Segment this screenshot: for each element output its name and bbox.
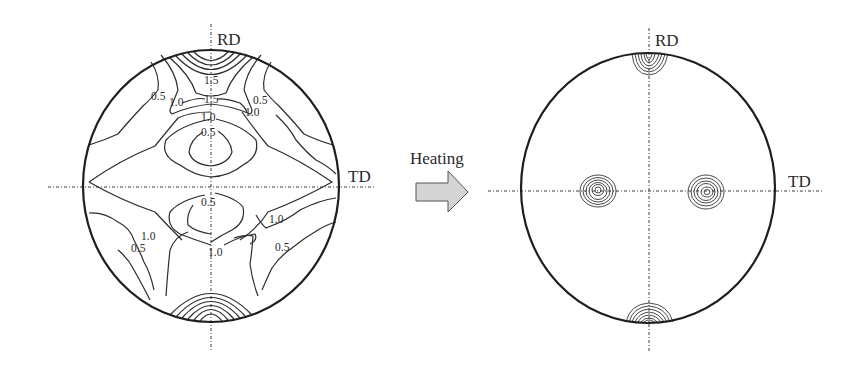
contour-label: 0.5 — [151, 90, 166, 102]
pole-figure-after: RD TD — [488, 28, 822, 352]
contour-label: 1.5 — [204, 93, 219, 105]
rd-label-before: RD — [217, 30, 241, 49]
right-pole-spot — [688, 175, 724, 209]
contour-label: 0.5 — [253, 94, 268, 106]
contour-label: 0.5 — [201, 196, 216, 208]
td-label-before: TD — [348, 167, 371, 186]
td-label-after: TD — [788, 172, 811, 191]
bottom-pole-contours — [170, 294, 252, 322]
right-arrow-icon — [416, 171, 468, 212]
rd-label-after: RD — [655, 31, 679, 50]
heating-label: Heating — [410, 149, 464, 168]
bottom-pole-spot — [626, 303, 673, 322]
pole-figure-before: RD TD 1.5 1.5 0.5 1.0 0.5 1.0 1.0 0.5 0.… — [48, 24, 375, 350]
contour-label: 1.5 — [204, 74, 219, 86]
contour-label: 0.5 — [201, 126, 216, 138]
pole-figure-diagram: RD TD 1.5 1.5 0.5 1.0 0.5 1.0 1.0 0.5 0.… — [0, 0, 863, 369]
contour-label: 1.0 — [169, 96, 184, 108]
contour-label: 0.5 — [275, 241, 290, 253]
top-pole-spot — [632, 54, 668, 75]
contour-label: 1.0 — [201, 111, 216, 123]
contour-label: 1.0 — [245, 106, 260, 118]
contour-label: 1.0 — [208, 246, 223, 258]
contour-label: 0.5 — [131, 242, 146, 254]
stereographic-rim-after — [521, 53, 775, 323]
heating-transition: Heating — [410, 149, 468, 212]
contour-label: 1.0 — [141, 230, 156, 242]
contour-label: 1.0 — [269, 213, 284, 225]
